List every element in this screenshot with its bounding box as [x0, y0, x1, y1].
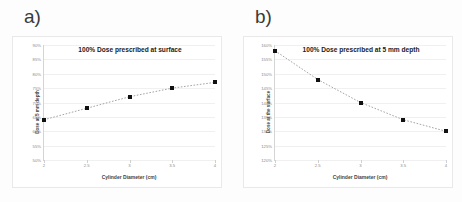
y-tick-label: 140%: [261, 100, 272, 105]
x-tick-mark: [44, 160, 45, 163]
panel-label-a: a): [24, 6, 41, 28]
x-axis-title-a: Cylinder Diameter (cm): [43, 174, 215, 180]
y-tick-label: 55%: [33, 143, 41, 148]
x-tick-mark: [361, 160, 362, 163]
y-axis-title-b: Dose at the surface: [266, 91, 271, 133]
panel-label-b: b): [255, 6, 272, 28]
figure-container: a) 100% Dose prescribed at surface Dose …: [0, 0, 462, 202]
y-axis-title-a: Dose at 5 mm depth: [35, 90, 40, 134]
x-tick-label: 2: [43, 163, 45, 168]
chart-a: 100% Dose prescribed at surface Dose at …: [12, 36, 222, 188]
y-tick-label: 65%: [33, 114, 41, 119]
x-tick-label: 2.5: [315, 163, 321, 168]
x-tick-label: 2.5: [84, 163, 90, 168]
y-tick-label: 160%: [261, 43, 272, 48]
x-tick-mark: [318, 160, 319, 163]
data-point-marker: [170, 86, 174, 90]
data-point-marker: [213, 80, 217, 84]
x-tick-label: 4: [445, 163, 447, 168]
x-tick-mark: [275, 160, 276, 163]
x-tick-label: 2: [274, 163, 276, 168]
y-tick-label: 125%: [261, 143, 272, 148]
y-tick-label: 155%: [261, 57, 272, 62]
trendline: [44, 45, 215, 160]
x-tick-label: 3: [128, 163, 130, 168]
x-tick-label: 4: [214, 163, 216, 168]
x-tick-mark: [172, 160, 173, 163]
y-tick-label: 70%: [33, 100, 41, 105]
y-tick-label: 145%: [261, 86, 272, 91]
y-tick-label: 75%: [33, 86, 41, 91]
data-point-marker: [401, 118, 405, 122]
data-point-marker: [444, 129, 448, 133]
data-point-marker: [42, 118, 46, 122]
x-tick-label: 3.5: [400, 163, 406, 168]
x-axis-title-b: Cylinder Diameter (cm): [274, 174, 446, 180]
y-tick-label: 120%: [261, 158, 272, 163]
y-tick-label: 60%: [33, 129, 41, 134]
panel-b: b) 100% Dose prescribed at 5 mm depth Do…: [231, 0, 462, 202]
x-tick-mark: [403, 160, 404, 163]
x-tick-mark: [87, 160, 88, 163]
data-point-marker: [316, 78, 320, 82]
chart-b: 100% Dose prescribed at 5 mm depth Dose …: [243, 36, 453, 188]
panel-a: a) 100% Dose prescribed at surface Dose …: [0, 0, 231, 202]
data-point-marker: [359, 101, 363, 105]
x-tick-mark: [130, 160, 131, 163]
x-tick-label: 3.5: [169, 163, 175, 168]
y-tick-label: 80%: [33, 71, 41, 76]
y-tick-label: 90%: [33, 43, 41, 48]
x-tick-mark: [215, 160, 216, 163]
data-point-marker: [128, 95, 132, 99]
y-tick-label: 50%: [33, 158, 41, 163]
y-tick-label: 130%: [261, 129, 272, 134]
plot-area-a: 90%85%80%75%70%65%60%55%50%22.533.54: [43, 45, 215, 161]
x-tick-label: 3: [359, 163, 361, 168]
y-tick-label: 85%: [33, 57, 41, 62]
y-tick-label: 135%: [261, 114, 272, 119]
y-tick-label: 150%: [261, 71, 272, 76]
plot-area-b: 160%155%150%145%140%135%130%125%120%22.5…: [274, 45, 446, 161]
x-tick-mark: [446, 160, 447, 163]
data-point-marker: [85, 106, 89, 110]
data-point-marker: [273, 49, 277, 53]
